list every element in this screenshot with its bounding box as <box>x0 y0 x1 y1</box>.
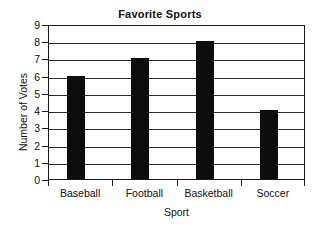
x-axis-tick-label: Soccer <box>257 187 290 199</box>
y-axis-tick-label: 2 <box>0 140 40 152</box>
bar <box>260 110 278 179</box>
y-axis-tick-label: 6 <box>0 71 40 83</box>
x-axis-tick-mark <box>112 180 113 186</box>
y-axis-tick-label: 9 <box>0 19 40 31</box>
gridline <box>49 78 304 79</box>
x-axis-tick-label: Basketball <box>184 187 232 199</box>
x-axis-tick-label: Baseball <box>60 187 100 199</box>
gridline <box>49 43 304 44</box>
bar <box>131 58 149 179</box>
x-axis-tick-mark <box>48 180 49 186</box>
bar-chart-figure: Favorite Sports Number of Votes 01234567… <box>0 0 320 229</box>
y-axis-tick-labels: 0123456789 <box>0 25 40 180</box>
y-axis-tick-label: 4 <box>0 105 40 117</box>
x-axis-tick-label: Football <box>126 187 163 199</box>
chart-title: Favorite Sports <box>0 8 320 20</box>
x-axis-title: Sport <box>48 206 305 218</box>
x-axis-tick-mark <box>177 180 178 186</box>
y-axis-tick-label: 3 <box>0 122 40 134</box>
gridline <box>49 60 304 61</box>
y-axis-tick-label: 5 <box>0 88 40 100</box>
x-axis-tick-mark <box>241 180 242 186</box>
bar <box>196 41 214 179</box>
y-axis-tick-label: 7 <box>0 53 40 65</box>
plot-area <box>48 25 305 180</box>
bar <box>67 76 85 179</box>
gridline <box>49 95 304 96</box>
x-axis-tick-mark <box>304 180 305 186</box>
y-axis-tick-label: 8 <box>0 36 40 48</box>
y-axis-tick-label: 0 <box>0 174 40 186</box>
x-axis-tick-labels: BaseballFootballBasketballSoccer <box>48 187 305 203</box>
y-axis-tick-label: 1 <box>0 157 40 169</box>
x-axis-tick-marks <box>48 180 305 186</box>
